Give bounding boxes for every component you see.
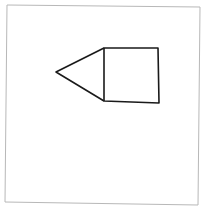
square-shape — [104, 48, 159, 103]
triangle-shape — [56, 48, 104, 101]
frame-border — [5, 5, 200, 205]
drawing-canvas — [0, 0, 205, 215]
